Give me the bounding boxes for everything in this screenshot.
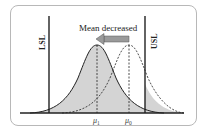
mean-new-label: μ1	[92, 116, 100, 126]
mean-old-label: μ0	[124, 116, 132, 126]
distribution-shift-diagram: Mean decreased LSL USL μ1 μ0	[0, 0, 206, 136]
svg-text:μ0: μ0	[124, 116, 132, 126]
mean-decreased-label: Mean decreased	[79, 23, 138, 33]
usl-label: USL	[150, 33, 159, 49]
out-of-spec-tail-area	[145, 84, 184, 113]
shift-arrow-icon	[96, 34, 129, 45]
svg-text:μ1: μ1	[92, 116, 100, 126]
lsl-label: LSL	[38, 35, 47, 50]
